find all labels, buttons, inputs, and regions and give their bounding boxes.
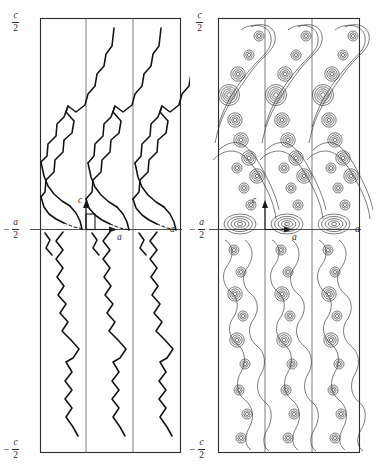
axis-edge-label-a-right: a: [355, 225, 360, 235]
axis-vector-label-a-left: a: [117, 233, 122, 243]
axis-label-c-over-2-left: c 2: [12, 11, 19, 33]
density-map-drawing: [189, 0, 378, 471]
density-ribbons-lower: [224, 240, 366, 451]
crystallography-figure: c 2 − a 2 − c 2 c a: [0, 0, 378, 471]
axis-vector-label-c-right: c: [252, 196, 256, 206]
axis-label-minus-a-over-2-left: − a 2: [3, 218, 19, 240]
unit-cell-frame-density: [219, 19, 360, 453]
chain-ends-upper: [41, 162, 177, 230]
axis-label-minus-c-over-2-left: − c 2: [3, 438, 19, 460]
axis-edge-label-a-left: a: [170, 225, 175, 235]
chain-group-upper: [41, 28, 190, 199]
density-ribbons-upper: [213, 25, 373, 219]
panel-structure-model: c 2 − a 2 − c 2 c a: [0, 0, 190, 471]
axis-label-minus-a-over-2-right: − a 2: [189, 218, 205, 240]
chain-group-lower: [56, 232, 173, 436]
unit-cell-frame: [41, 19, 181, 453]
axis-label-c-over-2-right: c 2: [196, 11, 203, 33]
structure-drawing: [0, 0, 190, 471]
axis-vector-label-c-left: c: [78, 196, 82, 206]
axis-vector-label-a-right: a: [292, 233, 297, 243]
panel-density-map: c 2 − a 2 − c 2 c a: [189, 0, 378, 471]
axis-label-minus-c-over-2-right: − c 2: [189, 438, 205, 460]
